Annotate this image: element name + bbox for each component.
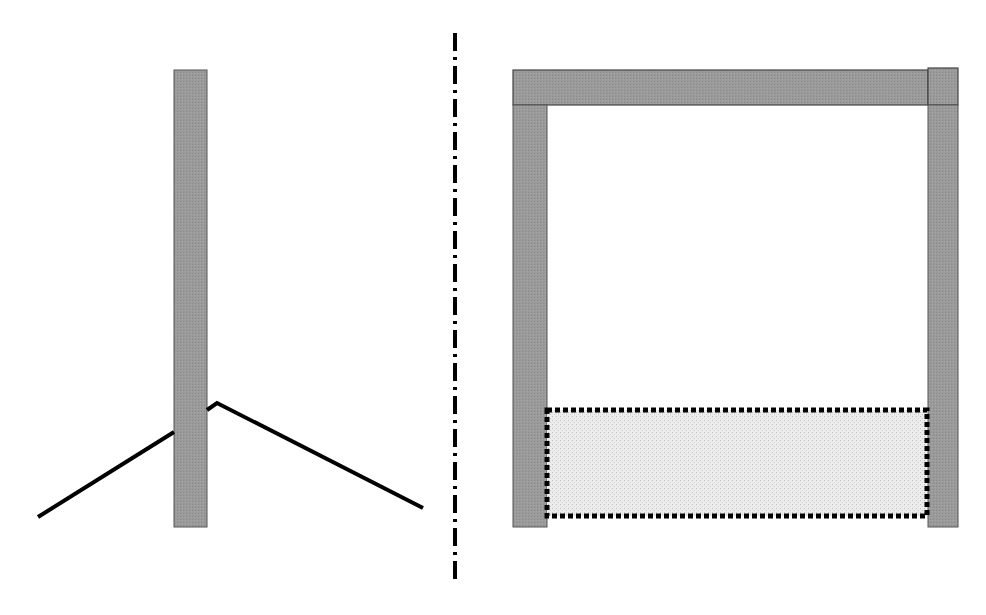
beam-end-cap: [928, 68, 958, 105]
diagram-canvas: [0, 0, 986, 615]
right-column: [928, 105, 958, 527]
right-panel: [513, 68, 958, 527]
vertical-post: [174, 70, 207, 527]
left-column: [513, 105, 547, 527]
dotted-infill-region: [547, 410, 927, 516]
top-beam: [513, 70, 928, 105]
angled-line-right-segment: [207, 403, 423, 508]
left-panel: [38, 70, 423, 527]
angled-line-left-segment: [38, 432, 174, 517]
